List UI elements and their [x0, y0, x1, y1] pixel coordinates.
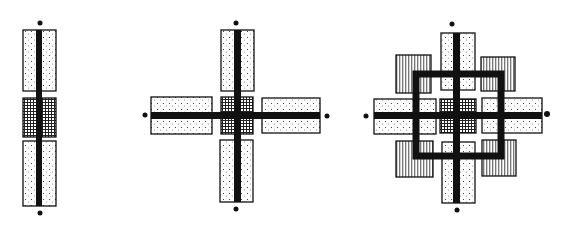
stage-1-node-top: [38, 21, 43, 26]
stage-3-node-bottom: [455, 208, 460, 213]
stage-2-cross: [143, 21, 330, 212]
stage-2-horizontal-spine: [151, 112, 320, 119]
plan-diagram: [0, 0, 569, 231]
stage-2-node-bottom: [234, 207, 239, 212]
stage-2-node-left: [143, 113, 148, 118]
stage-3-ring: [364, 22, 551, 213]
stage-1-spine: [36, 30, 42, 206]
stage-3-node-top: [450, 22, 455, 27]
stage-1-linear: [23, 21, 56, 216]
stage-3-node-left: [364, 114, 369, 119]
stage-2-node-right: [325, 114, 330, 119]
stage-3-node-right: [544, 111, 550, 117]
stage-3-horizontal-spine: [374, 112, 542, 119]
stage-1-node-bottom: [38, 211, 43, 216]
stage-2-node-top: [234, 21, 239, 26]
